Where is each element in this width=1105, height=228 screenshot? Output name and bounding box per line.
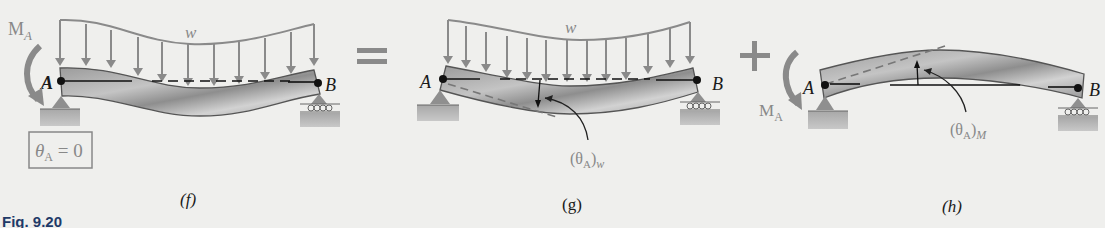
label-b: B bbox=[325, 75, 336, 95]
ground-b bbox=[300, 113, 340, 127]
pin-b bbox=[314, 79, 322, 87]
label-b: B bbox=[712, 74, 723, 94]
panel-h: A B MA (θA)M (h) bbox=[759, 46, 1100, 216]
pin-support-a bbox=[52, 96, 70, 108]
panel-label-f: (f) bbox=[180, 190, 196, 209]
panel-label-g: (g) bbox=[562, 195, 582, 214]
moment-label: MA bbox=[759, 101, 783, 124]
ground-a bbox=[40, 109, 80, 126]
figure-caption: Fig. 9.20 bbox=[2, 214, 62, 228]
pin-a bbox=[57, 77, 65, 85]
beam bbox=[60, 68, 320, 116]
label-a: A bbox=[802, 78, 815, 98]
beam bbox=[820, 50, 1084, 98]
load-label-w: w bbox=[185, 23, 197, 42]
label-b: B bbox=[1089, 80, 1100, 100]
equals-operator bbox=[357, 48, 387, 64]
panel-label-h: (h) bbox=[942, 197, 962, 216]
condition-text: θA = 0 bbox=[35, 140, 83, 164]
load-label-w: w bbox=[565, 18, 577, 37]
plus-operator bbox=[740, 41, 770, 71]
label-a: A bbox=[419, 72, 432, 92]
slope-label-w: (θA)w bbox=[570, 150, 604, 171]
panel-g: w A B (θA)w (g) bbox=[417, 18, 723, 214]
slope-label-m: (θA)M bbox=[950, 121, 987, 142]
moment-label: MA bbox=[8, 19, 32, 43]
panel-f: w A B MA θA = 0 (f) bbox=[8, 19, 340, 209]
